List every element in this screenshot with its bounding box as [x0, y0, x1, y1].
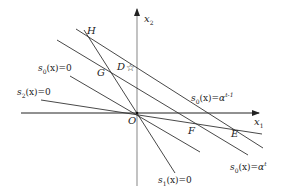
label-s0-zero: s0(x)=0	[38, 64, 72, 75]
diagram-canvas: x2 x1 H G D ☆ O F E s0(x)=0 s2(x)=0 s0(x…	[0, 0, 284, 195]
label-s0-alpha-t: s0(x)=αt	[230, 161, 267, 174]
label-rhs: =α	[212, 93, 226, 103]
point-F-label: F	[188, 126, 195, 136]
origin-dot	[136, 112, 139, 115]
line-s1-zero	[84, 30, 175, 173]
point-H-label: H	[87, 26, 96, 36]
x2-label-sub: 2	[150, 19, 154, 26]
point-E-label: E	[231, 129, 238, 139]
label-rhs: =0	[59, 63, 72, 73]
x2-axis-label: x2	[144, 14, 153, 26]
label-arg: (x)	[238, 162, 250, 172]
x1-axis-label: x1	[254, 117, 263, 129]
label-sup: t	[264, 160, 266, 167]
label-arg: (x)	[46, 63, 58, 73]
label-s1-zero: s1(x)=0	[158, 176, 192, 187]
x1-label-sub: 1	[260, 122, 264, 129]
label-sup: t-1	[225, 91, 233, 98]
label-s2-zero: s2(x)=0	[17, 88, 51, 99]
point-O-label: O	[128, 116, 136, 126]
label-arg: (x)	[25, 87, 37, 97]
label-rhs: =α	[251, 162, 265, 172]
label-rhs: =0	[179, 175, 192, 185]
label-s0-alpha-t-minus-1: s0(x)=αt-1	[191, 92, 233, 105]
point-D-label: D	[117, 62, 125, 72]
point-G-label: G	[97, 68, 105, 78]
label-rhs: =0	[38, 87, 51, 97]
line-s2-zero	[41, 100, 262, 134]
label-arg: (x)	[166, 175, 178, 185]
label-arg: (x)	[199, 93, 211, 103]
star-icon: ☆	[126, 63, 135, 73]
